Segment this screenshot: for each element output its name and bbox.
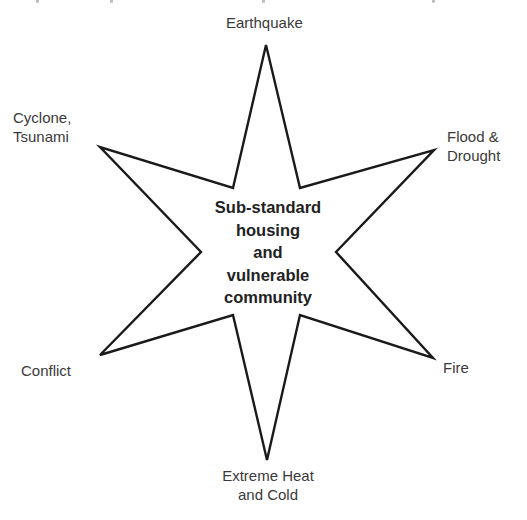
hazard-label-line: Tsunami xyxy=(13,127,71,146)
hazard-label-cyclone-tsunami: Cyclone, Tsunami xyxy=(13,108,71,146)
hazard-label-line: and Cold xyxy=(196,485,340,504)
center-label-line: Sub-standard xyxy=(168,196,368,219)
hazard-label-line: Flood & xyxy=(447,127,500,146)
center-label-line: community xyxy=(168,286,368,309)
hazard-label-line: Fire xyxy=(443,358,469,377)
center-label-line: vulnerable xyxy=(168,264,368,287)
center-label: Sub-standard housing and vulnerable comm… xyxy=(168,196,368,309)
hazard-label-extreme-heat-cold: Extreme Heat and Cold xyxy=(196,466,340,504)
hazard-label-line: Drought xyxy=(447,146,500,165)
center-label-line: and xyxy=(168,241,368,264)
hazard-label-line: Extreme Heat xyxy=(196,466,340,485)
hazard-label-line: Earthquake xyxy=(226,13,303,32)
hazard-label-line: Cyclone, xyxy=(13,108,71,127)
hazard-label-flood-drought: Flood & Drought xyxy=(447,127,500,165)
center-label-line: housing xyxy=(168,219,368,242)
hazard-label-conflict: Conflict xyxy=(21,361,71,380)
hazard-label-line: Conflict xyxy=(21,361,71,380)
hazard-label-fire: Fire xyxy=(443,358,469,377)
hazard-label-earthquake: Earthquake xyxy=(226,13,303,32)
